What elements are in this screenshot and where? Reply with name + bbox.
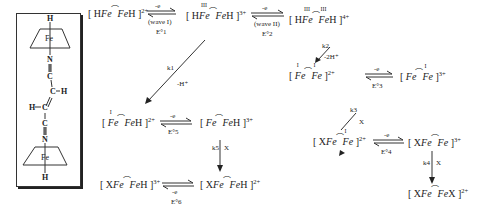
species-s12: [ XFe⌒FeH ]2+ [200,179,260,192]
atom-c4: C [42,119,48,128]
arrow-2-top: -e [262,4,267,12]
arrow-6-potential: E°6 [171,198,182,206]
k2-rate: k2 [322,42,329,50]
arrow-6-bottom: -e [172,188,177,196]
arrow-2-potential: E°2 [262,30,273,38]
arrow-4-potential: E°4 [381,148,392,156]
arrow-1-top: -e [155,2,160,10]
k3-rate: k3 [350,106,357,114]
eq-arrow-6 [162,180,194,189]
arrow-1-potential: E°1 [156,28,167,36]
k5-reagent: X [224,144,229,152]
species-s8: [ XFe⌒FeI ]2+ [313,136,366,149]
arrow-2-wave: (wave II) [254,20,280,28]
arrow-1-wave: (wave I) [148,18,172,26]
atom-n-top: N [47,55,53,64]
atom-n-bottom: N [42,135,48,144]
species-s5: [ Fe⌒FeI ]3+ [400,71,446,84]
species-s2: [ HFeIII⌒FeH ]3+ [186,10,246,23]
eq-arrow-2 [251,10,284,19]
k3-reagent: X [359,118,364,126]
atom-h-c2: H [61,87,67,96]
atom-fe-bottom: Fe [41,153,49,162]
atom-h-bottom: H [42,173,48,182]
species-s6: [ FeI⌒FeH ]2+ [102,117,155,130]
atom-h-c3: H [29,103,35,112]
k1-rate: k1 [167,64,174,72]
eq-arrow-5 [160,118,192,127]
atom-c3: C [42,103,48,112]
k1-loss: -H⁺ [177,80,188,88]
arrow-4-top: -e [384,131,389,139]
arrow-3-potential: E°3 [372,82,383,90]
k4-reagent: X [436,159,441,167]
arrow-3-top: -e [374,65,379,73]
species-s11: [ XFe⌒FeH ]3+ [100,179,160,192]
k2-loss: -2H⁺ [324,53,339,61]
arrow-5-potential: E°5 [168,128,179,136]
atom-c1: C [47,72,53,81]
species-s9: [ XFe⌒Fe ]3+ [408,137,461,150]
k4-rate: k4 [423,159,430,167]
species-s4: [ FeI⌒FeI ]2+ [289,70,335,83]
k5-rate: k5 [212,144,219,152]
atom-c2: C [50,87,56,96]
atom-fe-top: Fe [45,34,53,43]
species-s3: [ HFeIII⌒FeIIIH ]4+ [289,14,349,27]
species-s1: [ HFe⌒FeH ]2+ [88,8,148,21]
eq-arrow-1 [147,8,176,17]
atom-h-top: H [47,14,53,23]
arrow-5-top: -e [170,112,175,120]
species-s7: [ Fe⌒FeH ]3+ [200,117,253,130]
species-s10: [ XFe⌒FeX ]2+ [408,188,468,201]
